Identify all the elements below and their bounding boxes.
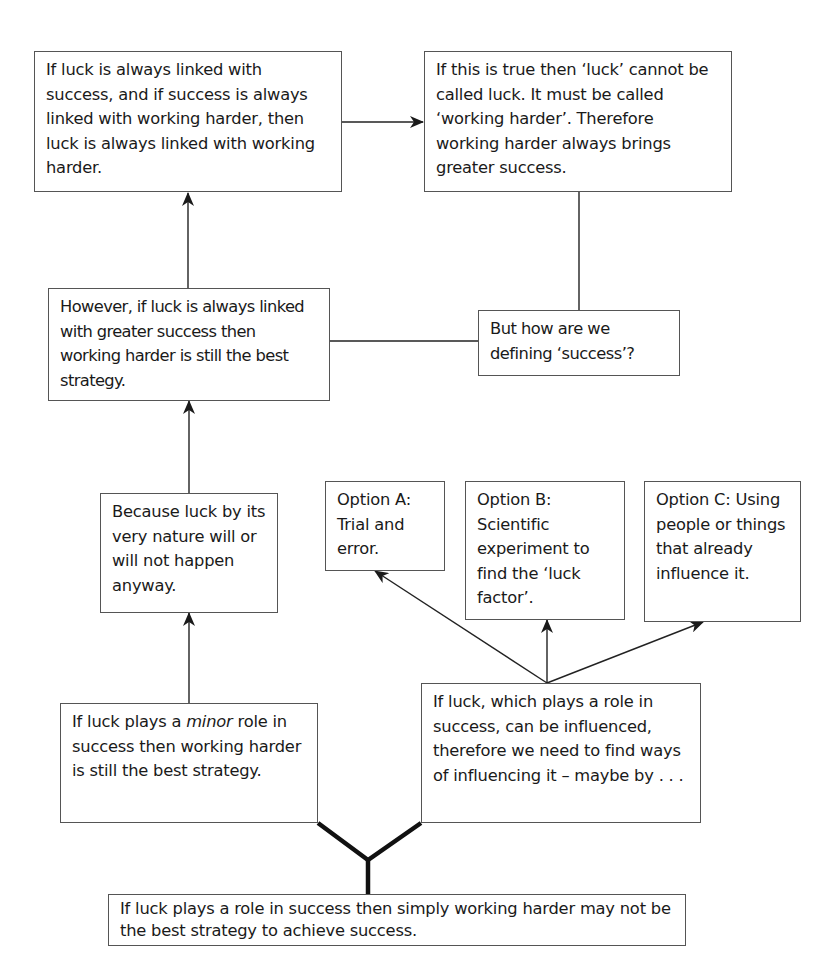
node-option-b: Option B: Scientific experiment to find … — [465, 481, 625, 620]
node-text-pre: If luck plays a — [72, 712, 186, 731]
node-text: If luck plays a role in success then sim… — [120, 899, 671, 940]
arrow-influenced-to-option-c — [547, 622, 703, 683]
node-text: Option C: Using people or things that al… — [656, 490, 785, 583]
node-text: Because luck by its very nature will or … — [112, 502, 265, 595]
node-however-best-strategy: However, if luck is always linked with g… — [48, 288, 330, 401]
node-luck-nature: Because luck by its very nature will or … — [100, 493, 278, 613]
node-minor-role: If luck plays a minor role in success th… — [60, 703, 318, 823]
node-defining-success: But how are we defining ‘success’? — [478, 310, 680, 376]
node-text: But how are we defining ‘success’? — [490, 319, 634, 363]
node-text-emphasis: minor — [186, 712, 232, 731]
node-luck-linked-with-working-harder: If luck is always linked with success, a… — [34, 51, 342, 192]
node-text: Option B: Scientific experiment to find … — [477, 490, 589, 607]
node-text: However, if luck is always linked with g… — [60, 297, 304, 390]
node-text: If luck, which plays a role in success, … — [433, 692, 684, 785]
node-text: Option A: Trial and error. — [337, 490, 411, 558]
node-text: If luck is always linked with success, a… — [46, 60, 315, 177]
node-text: If this is true then ‘luck’ cannot be ca… — [436, 60, 708, 177]
node-option-a: Option A: Trial and error. — [325, 481, 445, 571]
node-option-c: Option C: Using people or things that al… — [644, 481, 801, 622]
branch-connector — [318, 823, 421, 860]
node-luck-called-working-harder: If this is true then ‘luck’ cannot be ca… — [424, 51, 732, 192]
node-luck-influenced: If luck, which plays a role in success, … — [421, 683, 701, 823]
node-root-luck-role: If luck plays a role in success then sim… — [108, 894, 686, 946]
